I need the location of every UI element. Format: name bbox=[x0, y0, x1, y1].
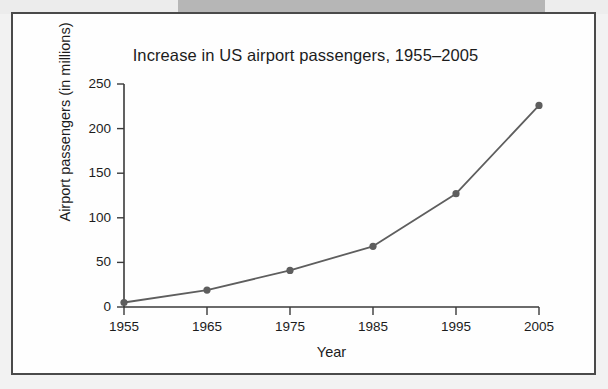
x-axis-ticks bbox=[124, 307, 539, 315]
y-tick-label-0: 0 bbox=[71, 299, 111, 314]
x-axis-title: Year bbox=[124, 344, 539, 360]
y-tick-label-50: 50 bbox=[71, 254, 111, 269]
y-tick-label-250: 250 bbox=[71, 76, 111, 91]
data-point-2005 bbox=[535, 102, 542, 109]
y-tick-label-100: 100 bbox=[71, 210, 111, 225]
data-point-1995 bbox=[452, 190, 459, 197]
x-tick-label-1975: 1975 bbox=[260, 319, 320, 334]
data-point-1975 bbox=[286, 267, 293, 274]
x-tick-label-2005: 2005 bbox=[509, 319, 569, 334]
data-point-markers bbox=[120, 102, 542, 306]
data-point-1955 bbox=[120, 299, 127, 306]
x-tick-label-1955: 1955 bbox=[94, 319, 154, 334]
x-tick-label-1985: 1985 bbox=[343, 319, 403, 334]
y-tick-label-200: 200 bbox=[71, 121, 111, 136]
data-point-1965 bbox=[203, 287, 210, 294]
y-axis-title: Airport passengers (in millions) bbox=[57, 7, 73, 237]
x-tick-label-1995: 1995 bbox=[426, 319, 486, 334]
data-point-1985 bbox=[369, 243, 376, 250]
chart-figure-panel: Increase in US airport passengers, 1955–… bbox=[11, 12, 596, 375]
data-line-airport-passengers bbox=[124, 105, 539, 302]
x-tick-label-1965: 1965 bbox=[177, 319, 237, 334]
y-axis-ticks bbox=[117, 84, 124, 307]
y-tick-label-150: 150 bbox=[71, 165, 111, 180]
